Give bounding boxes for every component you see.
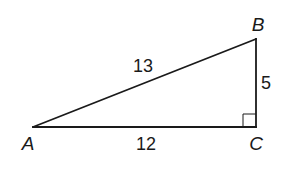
vertex-label-a: A <box>21 133 35 154</box>
vertex-label-b: B <box>252 14 265 35</box>
side-label-bc: 5 <box>261 73 271 93</box>
triangle-diagram: A B C 13 5 12 <box>0 0 288 170</box>
right-angle-marker <box>243 114 256 127</box>
side-label-ac: 12 <box>136 134 156 154</box>
side-label-ab: 13 <box>133 56 153 76</box>
side-ab <box>33 39 256 127</box>
vertex-label-c: C <box>249 133 263 154</box>
